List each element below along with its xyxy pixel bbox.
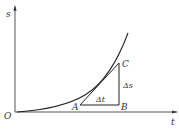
delta-t-label: Δt [95,95,106,104]
y-axis-label: s [6,9,11,19]
x-axis-label: t [171,117,175,127]
delta-s-label: Δs [122,81,133,90]
s-t-curve [17,33,128,112]
point-B-label: B [120,102,128,112]
point-A-label: A [71,102,79,112]
s-t-diagram: s t O A B C Δt Δs [0,0,179,135]
point-C-label: C [122,59,129,69]
origin-label: O [4,111,12,121]
